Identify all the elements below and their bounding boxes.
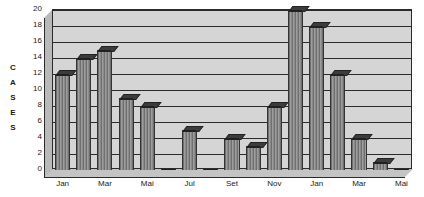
bar-top-edge	[162, 169, 175, 170]
bar-top-face	[330, 70, 352, 76]
bar-top-face	[55, 70, 77, 76]
bar	[76, 58, 91, 170]
bar-top-edge	[352, 138, 365, 139]
y-axis-tick-label: 12	[22, 69, 42, 77]
bar	[140, 106, 155, 170]
x-axis-tick-label: Jan	[310, 179, 323, 189]
bar	[309, 26, 324, 170]
y-axis-title-letter: E	[10, 105, 15, 120]
bar-top-face	[140, 102, 162, 108]
bar-top-edge	[120, 98, 133, 99]
bar-top-edge	[395, 169, 408, 170]
bar-top-face	[246, 142, 268, 148]
x-axis-tick-label: Mar	[98, 179, 112, 189]
bar-top-edge	[374, 162, 387, 163]
bar-top-face	[119, 94, 141, 100]
bar-top-edge	[310, 26, 323, 27]
left-axis-line	[44, 18, 45, 178]
bar	[161, 169, 176, 171]
y-axis-tick-labels: 02468101214161820	[22, 0, 42, 197]
bar	[330, 74, 345, 170]
bar	[288, 10, 303, 170]
bar-top-edge	[98, 50, 111, 51]
bar-top-edge	[204, 169, 217, 170]
y-axis-tick-label: 2	[22, 149, 42, 157]
bar-top-edge	[289, 10, 302, 11]
y-axis-tick-label: 8	[22, 101, 42, 109]
x-axis-tick-label: Nov	[267, 179, 281, 189]
bar-top-face	[373, 158, 395, 164]
bar-top-edge	[247, 146, 260, 147]
bar-top-face	[267, 102, 289, 108]
x-axis-tick-label: Jan	[56, 179, 69, 189]
y-axis-tick-label: 6	[22, 117, 42, 125]
x-axis-tick-label: Mai	[141, 179, 154, 189]
bar-top-edge	[268, 106, 281, 107]
bar-top-face	[97, 46, 119, 52]
baseline-axis-line	[44, 177, 405, 178]
bar	[182, 130, 197, 170]
bar	[373, 162, 388, 170]
bar-top-edge	[141, 106, 154, 107]
bar	[351, 138, 366, 170]
bar-top-face	[76, 54, 98, 60]
bar-top-edge	[77, 58, 90, 59]
y-axis-title-letter: C	[10, 60, 16, 75]
bar-series	[52, 9, 412, 170]
y-axis-title: C A S E S	[6, 60, 20, 135]
y-axis-tick-label: 18	[22, 21, 42, 29]
x-axis-tick-label: Mai	[395, 179, 408, 189]
y-axis-tick-label: 0	[22, 165, 42, 173]
bar	[267, 106, 282, 170]
y-axis-tick-label: 16	[22, 37, 42, 45]
y-axis-title-letter: S	[10, 120, 15, 135]
bar	[55, 74, 70, 170]
bar-top-face	[182, 126, 204, 132]
bar-chart: C A S E S 02468101214161820 JanMarMaiJul…	[0, 0, 424, 197]
x-axis-tick-label: Set	[226, 179, 238, 189]
bar	[203, 169, 218, 171]
bar	[224, 138, 239, 170]
bar-top-face	[351, 134, 373, 140]
bar-top-face	[309, 22, 331, 28]
x-axis-tick-label: Jul	[185, 179, 195, 189]
bar-top-face	[224, 134, 246, 140]
bar-top-face	[288, 6, 310, 12]
y-axis-title-letter: S	[10, 90, 15, 105]
x-axis-tick-label: Mar	[352, 179, 366, 189]
y-axis-tick-label: 20	[22, 5, 42, 13]
bar-top-edge	[183, 130, 196, 131]
bar-top-edge	[331, 74, 344, 75]
bar	[97, 50, 112, 170]
bar	[119, 98, 134, 170]
plot-wrapper	[44, 9, 412, 177]
y-axis-tick-label: 4	[22, 133, 42, 141]
x-axis-tick-labels: JanMarMaiJulSetNovJanMarMai	[44, 179, 424, 197]
bar	[246, 146, 261, 170]
bar-top-edge	[56, 74, 69, 75]
y-axis-tick-label: 10	[22, 85, 42, 93]
y-axis-title-letter: A	[10, 75, 16, 90]
bar-top-edge	[225, 138, 238, 139]
bar	[394, 169, 409, 171]
y-axis-tick-label: 14	[22, 53, 42, 61]
